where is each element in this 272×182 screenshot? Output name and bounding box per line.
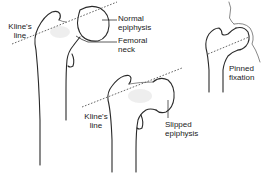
normal-femur-medial-outline	[66, 37, 80, 120]
acetabulum-outline	[234, 24, 260, 63]
pinned-head-outline	[236, 28, 249, 51]
femoral-neck-label-line2: neck	[118, 45, 147, 54]
normal-epiphysis-label-line1: Normal	[118, 14, 151, 23]
slipped-epiphysis-outline	[153, 78, 174, 112]
femoral-neck-label: Femoral neck	[118, 36, 147, 54]
normal-kline-label-line1: Kline's	[4, 22, 36, 31]
slipped-epiphysis-label-line1: Slipped	[165, 120, 198, 129]
slipped-neck-top	[129, 82, 153, 84]
slipped-kline-label-line2: line	[80, 121, 112, 130]
normal-epiphysis-label-line2: epiphysis	[118, 23, 151, 32]
normal-femur-trochanter-edge	[59, 20, 66, 22]
pinned-fixation-label-line1: Pinned	[229, 64, 254, 73]
normal-lesser-trochanter	[68, 54, 74, 67]
slipped-femur-medial-outline	[136, 109, 156, 172]
slipped-epiphysis-label: Slipped epiphysis	[165, 120, 198, 138]
pinned-fixation-label: Pinned fixation	[229, 64, 254, 82]
normal-kline-label: Kline's line	[4, 22, 36, 40]
normal-kline-label-line2: line	[4, 31, 36, 40]
slipped-neck-shading	[128, 89, 152, 103]
fixation-pin	[208, 37, 249, 54]
slipped-kline-label-line1: Kline's	[80, 112, 112, 121]
pinned-femur-lateral-outline	[206, 28, 236, 92]
pinned-fixation-label-line2: fixation	[229, 73, 254, 82]
diagram-canvas: Kline's line Normal epiphysis Femoral ne…	[0, 0, 272, 182]
normal-neck-shading	[50, 26, 70, 38]
normal-epiphysis-label: Normal epiphysis	[118, 14, 151, 32]
pelvis-outline	[229, 2, 234, 24]
femoral-neck-label-line1: Femoral	[118, 36, 147, 45]
slipped-kline-label: Kline's line	[80, 112, 112, 130]
slipped-epiphysis-label-line2: epiphysis	[165, 129, 198, 138]
